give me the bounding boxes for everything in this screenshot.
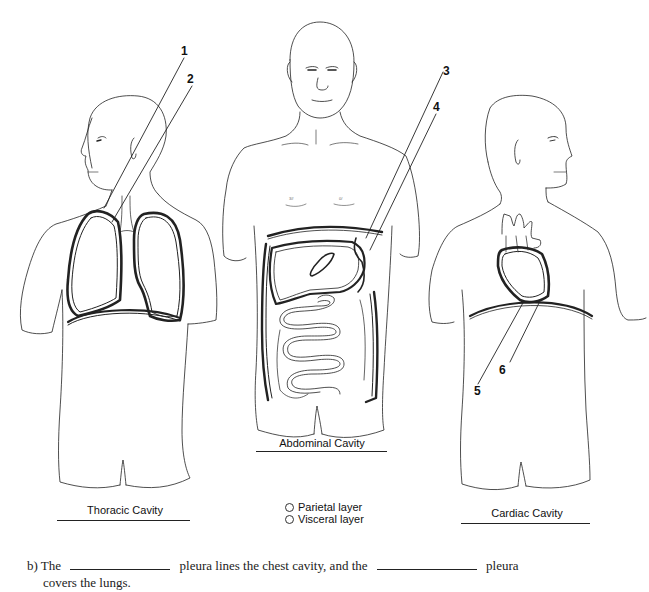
callout-label-2: 2 — [187, 72, 194, 86]
cardiac-figure — [429, 95, 646, 489]
fill-in-question: b) The pleura lines the chest cavity, an… — [27, 557, 627, 591]
svg-text:0/: 0/ — [339, 196, 343, 201]
callout-label-6: 6 — [499, 363, 506, 377]
svg-text:3//: 3// — [289, 196, 294, 201]
caption-abdominal-cavity: Abdominal Cavity — [257, 437, 387, 449]
legend-option-visceral[interactable]: Visceral layer — [285, 513, 364, 525]
caption-cardiac-cavity: Cardiac Cavity — [462, 507, 592, 519]
question-text-3: pleura — [486, 558, 518, 573]
legend-option-parietal[interactable]: Parietal layer — [285, 501, 364, 513]
question-text-2: pleura lines the chest cavity, and the — [180, 558, 368, 573]
question-prefix: b) — [27, 558, 38, 573]
callout-label-1: 1 — [181, 44, 188, 58]
callout-label-3: 3 — [443, 64, 450, 78]
caption-rule-cardiac — [461, 523, 590, 524]
legend-label-parietal: Parietal layer — [298, 501, 362, 513]
callout-label-4: 4 — [433, 100, 440, 114]
answer-blank-1[interactable] — [70, 559, 170, 570]
caption-thoracic-cavity: Thoracic Cavity — [60, 504, 190, 516]
question-text-4: covers the lungs. — [27, 574, 627, 591]
caption-rule-abdominal — [256, 451, 387, 452]
legend-label-visceral: Visceral layer — [298, 513, 364, 525]
radio-circle-icon[interactable] — [285, 515, 294, 524]
answer-blank-2[interactable] — [377, 559, 477, 570]
layer-legend: Parietal layer Visceral layer — [285, 501, 364, 525]
caption-rule-thoracic — [57, 520, 190, 521]
question-text-1: The — [41, 558, 61, 573]
thoracic-figure — [20, 58, 216, 488]
abdominal-figure: 3// 0/ — [223, 22, 443, 437]
radio-circle-icon[interactable] — [285, 503, 294, 512]
callout-label-5: 5 — [474, 384, 481, 398]
